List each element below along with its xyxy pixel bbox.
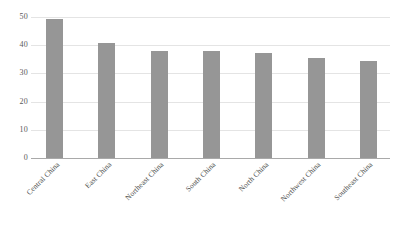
bar [98, 43, 115, 158]
bar [308, 58, 325, 158]
category-labels: Central China East China Northeast China… [0, 160, 402, 228]
bar [203, 51, 220, 158]
bar [255, 53, 272, 158]
bar [360, 61, 377, 158]
bar [46, 19, 63, 158]
category-label: Southeast China [283, 160, 374, 228]
bar-chart: 50 40 30 20 10 0 Central China East Chin… [0, 0, 402, 228]
category-label: South China [127, 160, 218, 228]
bar [151, 51, 168, 158]
